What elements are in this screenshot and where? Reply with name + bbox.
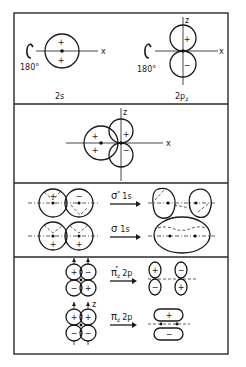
- arrow-label: σ*1s: [111, 189, 132, 201]
- phase-sign: +: [92, 132, 99, 141]
- antibonding-lobe-right: [189, 189, 211, 217]
- contour-lines: [158, 227, 206, 230]
- z-axis-label: z: [185, 16, 189, 25]
- nucleus-dot: [160, 323, 163, 326]
- z-axis-label: z: [92, 300, 96, 309]
- sigma-1s-row: + + σ1s: [28, 217, 216, 253]
- arrowhead-icon: [132, 278, 137, 284]
- nucleus-dot: [77, 201, 80, 204]
- nucleus-dot: [51, 201, 54, 204]
- phase-sign: +: [166, 311, 173, 320]
- phase-sign: −: [184, 61, 191, 70]
- z-axis-label: z: [123, 108, 127, 117]
- rotation-arrow-icon: [27, 44, 33, 58]
- nucleus-dot: [194, 201, 197, 204]
- phase-sign: +: [178, 283, 185, 292]
- nucleus-dot: [176, 323, 179, 326]
- phase-sign: +: [85, 284, 92, 293]
- arrow-label: πz2p: [111, 311, 132, 323]
- arrow-label: πz*2p: [111, 264, 132, 279]
- nucleus-dot: [119, 141, 123, 145]
- phase-sign: −: [166, 330, 173, 339]
- nucleus-dot: [166, 201, 169, 204]
- contour-lines: [155, 190, 208, 212]
- nucleus-dot: [80, 324, 83, 327]
- phase-sign: −: [76, 192, 83, 201]
- nucleus-dot: [181, 49, 185, 53]
- phase-sign: −: [71, 284, 78, 293]
- phase-sign: +: [152, 266, 159, 275]
- phase-sign: +: [71, 268, 78, 277]
- nucleus-dot: [77, 234, 80, 237]
- arrowhead-icon: [136, 234, 141, 240]
- orbital-label-2pz: 2pz: [175, 92, 188, 102]
- nucleus-dot: [80, 279, 83, 282]
- orbital-label-2s: 2s: [55, 92, 64, 101]
- phase-sign: −: [123, 146, 130, 155]
- axis-arrow-icon: [86, 258, 90, 262]
- phase-sign: −: [85, 268, 92, 277]
- nucleus-dot: [193, 234, 196, 237]
- rotation-label: 180°: [137, 65, 156, 74]
- arrowhead-icon: [136, 201, 141, 207]
- x-axis-label: x: [101, 47, 106, 56]
- antibonding-lobe-left: [153, 188, 175, 218]
- molecular-orbital-diagram: 180° x + + 2s 180° x z + − 2pz x z + + +: [0, 0, 246, 367]
- pi-2p-row: z + + − − πz2p + −: [66, 300, 190, 345]
- nucleus-dot: [168, 234, 171, 237]
- axis-arrow-icon: [86, 302, 90, 306]
- phase-sign: +: [76, 240, 83, 249]
- bonding-orbital: [154, 217, 210, 253]
- sp-overlap-panel: x z + + + −: [66, 108, 171, 181]
- phase-sign: +: [123, 130, 130, 139]
- axis-arrow-icon: [72, 302, 76, 306]
- nucleus-dot: [51, 234, 54, 237]
- axis-arrow-icon: [72, 258, 76, 262]
- arrowhead-icon: [132, 322, 137, 328]
- nucleus-dot: [60, 49, 64, 53]
- pi-star-2p-row: + − − + πz*2p + − − +: [66, 258, 196, 296]
- rotation-arrow-icon: [145, 44, 151, 58]
- orbital-2s: 180° x + + 2s: [20, 34, 106, 101]
- x-axis-label: x: [219, 47, 224, 56]
- nucleus-dot: [99, 141, 103, 145]
- phase-sign: +: [92, 146, 99, 155]
- phase-sign: −: [152, 283, 159, 292]
- phase-sign: −: [85, 329, 92, 338]
- phase-sign: +: [50, 240, 57, 249]
- orbital-2pz: 180° x z + − 2pz: [137, 16, 224, 102]
- sigma-star-1s-row: + − σ*1s: [28, 188, 216, 218]
- phase-sign: −: [178, 266, 185, 275]
- phase-sign: +: [50, 192, 57, 201]
- phase-sign: +: [85, 313, 92, 322]
- arrow-label: σ1s: [111, 223, 130, 234]
- phase-sign: −: [71, 329, 78, 338]
- rotation-label: 180°: [20, 63, 39, 72]
- phase-sign: +: [71, 313, 78, 322]
- x-axis-label: x: [166, 139, 171, 148]
- phase-sign: +: [58, 38, 65, 47]
- phase-sign: +: [184, 35, 191, 44]
- phase-sign: +: [58, 56, 65, 65]
